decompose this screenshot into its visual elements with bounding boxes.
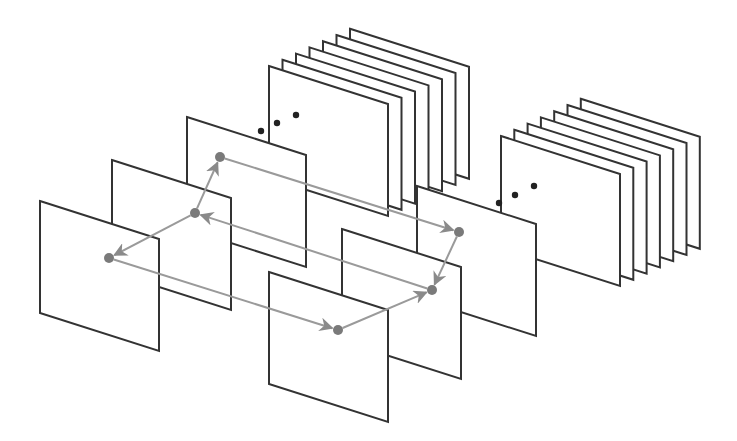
ellipsis-dot (258, 128, 264, 134)
diagram-canvas (0, 0, 737, 441)
ellipsis-dot (274, 120, 280, 126)
ellipsis-dot (496, 200, 502, 206)
node-e (427, 285, 437, 295)
node-b (190, 208, 200, 218)
node-d (333, 325, 343, 335)
ellipsis-dot (293, 112, 299, 118)
node-c (215, 152, 225, 162)
node-f (454, 227, 464, 237)
layered-planes-diagram (0, 0, 737, 441)
ellipsis-dot (531, 183, 537, 189)
node-a (104, 253, 114, 263)
ellipsis-dot (512, 192, 518, 198)
